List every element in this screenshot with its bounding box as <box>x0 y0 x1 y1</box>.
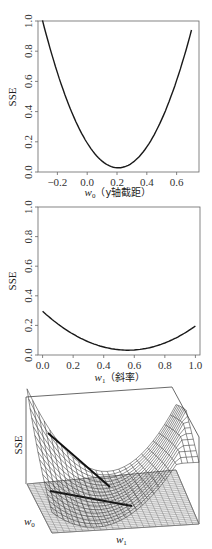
w1-axis-label: w1 <box>116 533 127 547</box>
x-tick-label: 0.0 <box>36 359 50 371</box>
y-tick-label: 1.0 <box>22 14 34 28</box>
y-axis-label: SSE <box>6 87 18 106</box>
x-tick-label: 0.2 <box>66 359 80 371</box>
x-tick-label: 0.4 <box>97 359 111 371</box>
w0-axis-label: w0 <box>24 515 35 529</box>
chart-sse-vs-w1: 0.00.20.40.60.81.0 0.00.20.40.60.81.0 SS… <box>6 200 203 385</box>
y-tick-label: 0.6 <box>22 259 34 273</box>
x-axis-label: w1（斜率） <box>95 371 146 385</box>
y-tick-label: 0.4 <box>22 288 34 302</box>
chart-sse-vs-w0: 0.00.20.40.60.81.0 −0.20.00.20.40.6 SSE … <box>6 14 199 200</box>
y-tick-label: 0.0 <box>22 348 34 362</box>
w1-description: （斜率） <box>105 371 145 383</box>
y-axis-ticks: 0.00.20.40.60.81.0 <box>22 200 38 362</box>
plot-frame <box>38 21 199 172</box>
w1-subscript: 1 <box>123 539 127 547</box>
x-axis-label: w0（y轴截距） <box>85 186 152 200</box>
y-tick-label: 0.0 <box>22 165 34 179</box>
chart-sse-surface-3d: SSE w0 w1 <box>12 387 199 547</box>
y-tick-label: 1.0 <box>22 200 34 214</box>
y-tick-label: 0.8 <box>22 44 34 58</box>
plot-frame <box>38 207 200 355</box>
x-tick-label: −0.2 <box>47 176 67 188</box>
y-axis-ticks: 0.00.20.40.60.81.0 <box>22 14 38 179</box>
y-tick-label: 0.2 <box>22 135 34 149</box>
sse-curve-w0 <box>43 20 192 168</box>
x-tick-label: 0.6 <box>170 176 184 188</box>
x-tick-label: 1.0 <box>189 359 203 371</box>
y-tick-label: 0.4 <box>22 104 34 118</box>
w0-description: （y轴截距） <box>95 186 151 198</box>
w0-subscript: 0 <box>31 521 35 529</box>
y-tick-label: 0.8 <box>22 229 34 243</box>
sse-curve-w1 <box>43 311 196 350</box>
y-tick-label: 0.6 <box>22 74 34 88</box>
x-tick-label: 0.8 <box>158 359 172 371</box>
z-axis-label: SSE <box>12 435 24 454</box>
figure-canvas: 0.00.20.40.60.81.0 −0.20.00.20.40.6 SSE … <box>0 0 212 549</box>
y-tick-label: 0.2 <box>22 319 34 333</box>
x-axis-ticks: −0.20.00.20.40.6 <box>47 172 184 188</box>
y-axis-label: SSE <box>6 271 18 290</box>
x-axis-ticks: 0.00.20.40.60.81.0 <box>36 355 203 371</box>
x-tick-label: 0.6 <box>127 359 141 371</box>
